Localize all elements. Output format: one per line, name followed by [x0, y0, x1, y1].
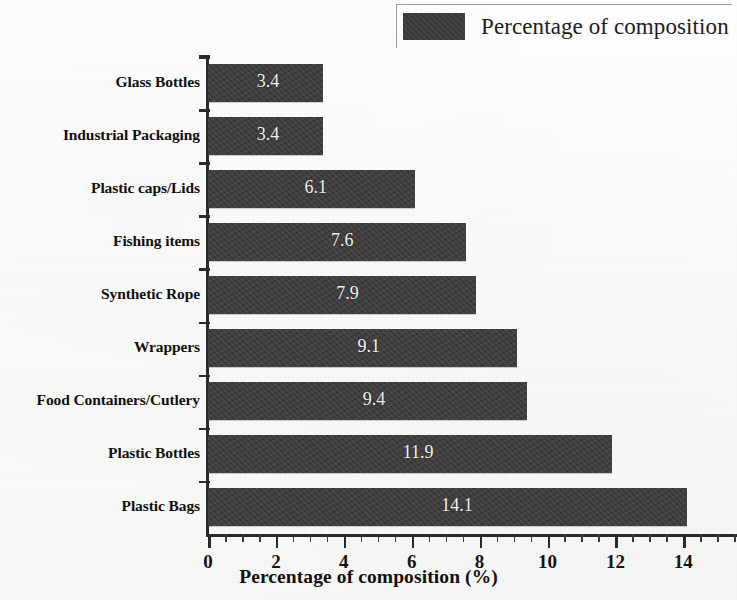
- y-axis-tick: [199, 375, 210, 378]
- x-axis-minor-tick: [293, 534, 295, 542]
- x-axis-major-tick: [412, 534, 415, 548]
- x-axis-major-tick: [276, 534, 279, 548]
- bar-value-label: 3.4: [257, 124, 280, 145]
- y-axis-tick: [199, 322, 210, 325]
- x-axis-minor-tick: [225, 534, 227, 542]
- x-axis-minor-tick: [598, 534, 600, 542]
- x-axis-minor-tick: [649, 534, 651, 542]
- x-axis-minor-tick: [395, 534, 397, 542]
- y-axis-tick: [199, 481, 210, 484]
- x-axis-minor-tick: [361, 534, 363, 542]
- x-axis-minor-tick: [429, 534, 431, 542]
- category-label: Plastic Bottles: [0, 444, 200, 462]
- y-axis-tick: [199, 109, 210, 112]
- bar-value-label: 14.1: [441, 495, 473, 516]
- category-label: Industrial Packaging: [0, 126, 200, 144]
- x-axis-minor-tick: [717, 534, 719, 542]
- x-axis-major-tick: [548, 534, 551, 548]
- category-label: Synthetic Rope: [0, 285, 200, 303]
- category-label: Plastic Bags: [0, 497, 200, 515]
- x-axis-minor-tick: [378, 534, 380, 542]
- x-axis-minor-tick: [242, 534, 244, 542]
- x-axis-minor-tick: [310, 534, 312, 542]
- x-axis-minor-tick: [666, 534, 668, 542]
- bar-value-label: 9.4: [363, 389, 386, 410]
- x-axis-minor-tick: [463, 534, 465, 542]
- legend-swatch-icon: [403, 13, 465, 40]
- x-axis-minor-tick: [564, 534, 566, 542]
- x-axis-minor-tick: [581, 534, 583, 542]
- bar-value-label: 7.6: [331, 230, 354, 251]
- x-axis-minor-tick: [700, 534, 702, 542]
- bar-value-label: 9.1: [357, 336, 380, 357]
- x-axis-minor-tick: [734, 534, 736, 542]
- x-axis-minor-tick: [259, 534, 261, 542]
- category-label: Fishing items: [0, 232, 200, 250]
- x-axis-minor-tick: [446, 534, 448, 542]
- x-axis-minor-tick: [497, 534, 499, 542]
- category-label: Plastic caps/Lids: [0, 179, 200, 197]
- x-axis-major-tick: [615, 534, 618, 548]
- bar-value-label: 3.4: [257, 71, 280, 92]
- x-axis-title: Percentage of composition (%): [0, 566, 737, 588]
- chart-legend: Percentage of composition: [396, 4, 732, 48]
- x-axis-minor-tick: [327, 534, 329, 542]
- category-label: Wrappers: [0, 338, 200, 356]
- y-axis-tick: [199, 162, 210, 165]
- chart-figure: Percentage of composition 3.43.46.17.67.…: [0, 0, 737, 600]
- x-axis-line: [206, 534, 737, 537]
- x-axis-major-tick: [480, 534, 483, 548]
- bar-value-label: 6.1: [304, 177, 327, 198]
- y-axis-tick: [199, 268, 210, 271]
- bar-value-label: 7.9: [336, 283, 359, 304]
- x-axis-major-tick: [344, 534, 347, 548]
- category-label: Food Containers/Cutlery: [0, 391, 200, 409]
- x-axis-minor-tick: [632, 534, 634, 542]
- y-axis-tick: [199, 55, 210, 58]
- x-axis-major-tick: [208, 534, 211, 548]
- x-axis-major-tick: [683, 534, 686, 548]
- y-axis-tick: [199, 428, 210, 431]
- legend-label: Percentage of composition: [481, 14, 729, 40]
- x-axis-minor-tick: [514, 534, 516, 542]
- category-label: Glass Bottles: [0, 73, 200, 91]
- bar-value-label: 11.9: [403, 442, 434, 463]
- x-axis-minor-tick: [531, 534, 533, 542]
- y-axis-tick: [199, 215, 210, 218]
